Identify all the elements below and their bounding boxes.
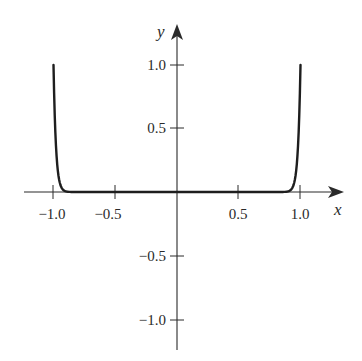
x-tick-label: −0.5 [94, 206, 121, 222]
y-tick-label: −0.5 [139, 248, 166, 264]
y-axis-label: y [155, 22, 165, 41]
y-tick-label: 1.0 [147, 57, 166, 73]
y-tick-label: −1.0 [139, 312, 166, 328]
x-tick-label: −1.0 [38, 206, 65, 222]
x-axis-label: x [333, 200, 342, 219]
y-tick-label: 0.5 [147, 120, 166, 136]
plot-area: −1.0 −0.5 0.5 1.0 1.0 0.5 −0.5 −1.0 x y [0, 0, 362, 361]
x-tick-label: 0.5 [229, 206, 248, 222]
x-tick-label: 1.0 [291, 206, 310, 222]
